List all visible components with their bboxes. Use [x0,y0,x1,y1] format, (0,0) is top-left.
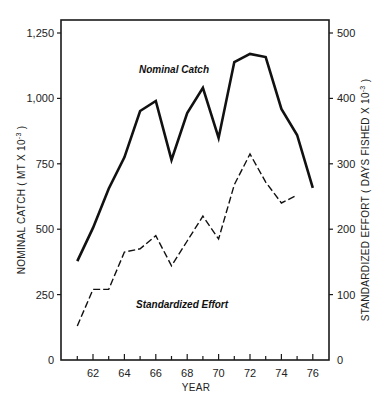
x-tick-label: 62 [87,367,99,379]
y-axis-left: 02505007501,0001,250 [26,27,61,366]
y-tick-label: 1,250 [26,27,54,39]
x-tick-label: 64 [118,367,130,379]
x-tick-label: 70 [212,367,224,379]
y2-tick-label: 200 [337,223,355,235]
catch-line [77,54,312,261]
x-tick-label: 66 [150,367,162,379]
y2-tick-label: 300 [337,158,355,170]
y-axis-title-left-exp: -3 [15,132,22,139]
y-axis-title-left-close: ) [16,126,27,133]
y-axis-title-left: NOMINAL CATCH ( MT X 10-3 ) [15,126,27,275]
x-tick-label: 68 [181,367,193,379]
y-axis-right: 0100200300400500 [329,27,355,366]
y2-tick-label: 0 [337,354,343,366]
y2-tick-label: 100 [337,289,355,301]
y-axis-title-right-text: STANDARDIZED EFFORT ( DAYS FISHED X 10 [360,92,371,321]
x-tick-label: 72 [244,367,256,379]
series-label-catch: Nominal Catch [139,64,209,75]
y-tick-label: 1,000 [26,92,54,104]
series-label-effort: Standardized Effort [136,299,229,310]
y-axis-title-right-close: ) [360,79,371,86]
y-tick-label: 750 [36,158,54,170]
y-tick-label: 500 [36,223,54,235]
x-tick-label: 76 [307,367,319,379]
y2-tick-label: 400 [337,92,355,104]
y-tick-label: 250 [36,289,54,301]
x-axis-title: YEAR [182,382,210,393]
x-tick-label: 74 [275,367,287,379]
y-axis-title-right-exp: -3 [359,85,366,92]
y-axis-title-right: STANDARDIZED EFFORT ( DAYS FISHED X 10-3… [359,79,371,322]
catch-effort-chart: 6264666870727476 02505007501,0001,250 01… [0,0,389,410]
y-tick-label: 0 [48,354,54,366]
x-axis: 6264666870727476 [77,354,319,379]
series-lines [77,54,312,326]
y-axis-title-left-text: NOMINAL CATCH ( MT X 10 [16,139,27,274]
y2-tick-label: 500 [337,27,355,39]
